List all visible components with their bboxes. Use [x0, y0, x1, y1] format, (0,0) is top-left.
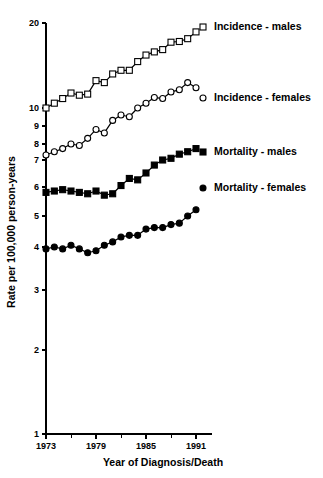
y-tick-label-10: 10: [29, 103, 39, 113]
data-point-1983: [126, 175, 132, 181]
data-point-1989: [176, 38, 182, 44]
data-point-1981: [110, 71, 116, 77]
data-point-1974: [51, 149, 57, 155]
series-incidence-females: [43, 80, 199, 158]
data-point-1977: [76, 92, 82, 98]
data-point-1988: [168, 155, 174, 161]
data-point-1991: [193, 85, 199, 91]
data-point-1984: [135, 232, 141, 238]
data-point-1979: [93, 126, 99, 132]
series-mortality-males: [43, 146, 199, 199]
data-point-1980: [101, 192, 107, 198]
x-axis-title: Year of Diagnosis/Death: [103, 456, 223, 468]
legend-label: Incidence - males: [214, 20, 302, 32]
data-point-1975: [60, 246, 66, 252]
data-point-1987: [160, 225, 166, 231]
data-point-1981: [110, 191, 116, 197]
y-tick-label-3: 3: [34, 285, 39, 295]
data-point-1973: [43, 189, 49, 195]
legend-marker-icon: [200, 185, 206, 191]
data-point-1973: [43, 246, 49, 252]
data-point-1986: [151, 225, 157, 231]
data-point-1991: [193, 207, 199, 213]
data-point-1990: [185, 213, 191, 219]
y-tick-label-5: 5: [34, 211, 39, 221]
data-point-1991: [193, 29, 199, 35]
data-point-1988: [168, 89, 174, 95]
data-point-1982: [118, 112, 124, 118]
data-point-1984: [135, 105, 141, 111]
data-point-1977: [76, 246, 82, 252]
y-tick-label-8: 8: [34, 139, 39, 149]
series-incidence-males: [43, 29, 199, 111]
data-point-1980: [101, 242, 107, 248]
data-point-1990: [185, 149, 191, 155]
series-mortality-females: [43, 207, 199, 256]
data-point-1986: [151, 94, 157, 100]
y-tick-label-1: 1: [34, 429, 39, 439]
data-point-1979: [93, 78, 99, 84]
data-point-1988: [168, 39, 174, 45]
data-point-1974: [51, 188, 57, 194]
data-point-1985: [143, 100, 149, 106]
data-point-1984: [135, 59, 141, 65]
data-point-1978: [85, 191, 91, 197]
x-tick-label-1979: 1979: [86, 441, 106, 451]
y-tick-label-20: 20: [29, 18, 39, 28]
x-tick-label-1973: 1973: [36, 441, 56, 451]
y-axis-title: Rate per 100,000 person-years: [5, 156, 17, 308]
legend-item-incidence-males: Incidence - males: [200, 20, 302, 32]
data-point-1976: [68, 188, 74, 194]
data-point-1976: [68, 90, 74, 96]
data-point-1988: [168, 222, 174, 228]
data-point-1977: [76, 143, 82, 149]
legend-item-incidence-females: Incidence - females: [200, 91, 311, 103]
legend-label: Mortality - males: [214, 145, 297, 157]
x-tick-label-1991: 1991: [186, 441, 206, 451]
data-point-1982: [118, 183, 124, 189]
data-point-1978: [85, 135, 91, 141]
data-point-1980: [101, 130, 107, 136]
data-point-1980: [101, 80, 107, 86]
y-tick-label-6: 6: [34, 182, 39, 192]
data-point-1983: [126, 232, 132, 238]
data-point-1976: [68, 242, 74, 248]
data-point-1987: [160, 47, 166, 53]
data-point-1979: [93, 248, 99, 254]
data-point-1973: [43, 152, 49, 158]
data-series-group: [43, 29, 199, 256]
y-tick-label-2: 2: [34, 345, 39, 355]
data-point-1975: [60, 146, 66, 152]
data-point-1974: [51, 244, 57, 250]
data-point-1987: [160, 96, 166, 102]
legend-label: Mortality - females: [214, 181, 306, 193]
data-point-1978: [85, 250, 91, 256]
chart-legend: Incidence - malesIncidence - femalesMort…: [200, 20, 311, 193]
y-tick-label-9: 9: [34, 121, 39, 131]
data-point-1975: [60, 187, 66, 193]
data-point-1991: [193, 146, 199, 152]
data-point-1983: [126, 114, 132, 120]
data-point-1985: [143, 170, 149, 176]
y-axis: 1234567891020: [29, 18, 46, 439]
legend-marker-icon: [200, 149, 206, 155]
data-point-1986: [151, 162, 157, 168]
data-point-1986: [151, 49, 157, 55]
data-point-1982: [118, 67, 124, 73]
data-point-1990: [185, 36, 191, 42]
y-tick-label-4: 4: [34, 242, 39, 252]
rate-trend-line-chart: 1234567891020 1973197919851991 Rate per …: [0, 0, 323, 478]
data-point-1981: [110, 239, 116, 245]
data-point-1984: [135, 177, 141, 183]
data-point-1974: [51, 100, 57, 106]
data-point-1978: [85, 91, 91, 97]
data-point-1989: [176, 220, 182, 226]
data-point-1987: [160, 157, 166, 163]
chart-figure: 1234567891020 1973197919851991 Rate per …: [0, 0, 323, 478]
data-point-1979: [93, 188, 99, 194]
x-axis: 1973197919851991: [36, 434, 212, 451]
legend-marker-icon: [200, 95, 206, 101]
data-point-1985: [143, 226, 149, 232]
data-point-1973: [43, 105, 49, 111]
data-point-1989: [176, 151, 182, 157]
